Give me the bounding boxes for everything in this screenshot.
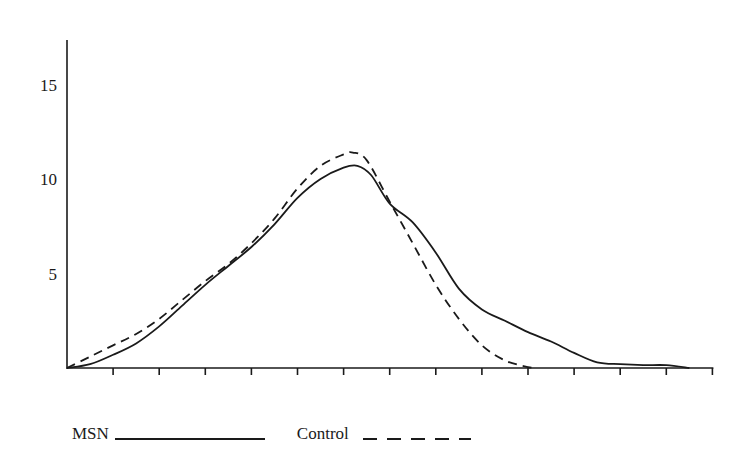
y-tick-label: 10: [40, 170, 57, 189]
legend-item-control: Control: [297, 424, 471, 444]
legend-swatch-dashed: [363, 438, 471, 440]
y-axis-labels: 51015: [40, 76, 57, 284]
legend: MSN Control: [72, 424, 503, 444]
series-line-control: [67, 152, 537, 368]
legend-label-control: Control: [297, 424, 349, 444]
legend-swatch-solid: [115, 438, 265, 440]
y-tick-label: 15: [40, 76, 57, 95]
series-lines: [67, 152, 689, 368]
y-tick-label: 5: [49, 265, 58, 284]
axes: [67, 40, 713, 375]
series-line-msn: [67, 165, 689, 368]
legend-label-msn: MSN: [72, 424, 109, 444]
line-chart: 51015: [0, 0, 755, 476]
legend-item-msn: MSN: [72, 424, 265, 444]
